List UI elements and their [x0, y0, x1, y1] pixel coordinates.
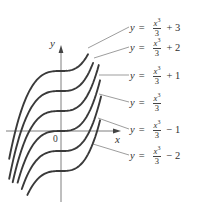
fraction-denominator: 3: [155, 131, 159, 140]
equation-constant: + 1: [166, 70, 180, 81]
fraction: x33: [153, 144, 162, 166]
y-axis-label: y: [50, 37, 55, 49]
fraction-denominator: 3: [155, 104, 159, 113]
equation-variable: y: [130, 124, 135, 135]
fraction-denominator: 3: [155, 49, 159, 58]
leader-line: [93, 144, 129, 155]
equation-constant: + 3: [166, 22, 180, 33]
equation-variable: y: [130, 42, 135, 53]
curve-c-1: [13, 65, 99, 182]
curve-family: [9, 54, 101, 195]
equation-variable: y: [130, 150, 135, 161]
equation-variable: y: [130, 22, 135, 33]
equation-constant: + 2: [166, 42, 180, 53]
equation-label: y=x33: [130, 91, 166, 113]
equation-constant: − 2: [166, 150, 180, 161]
equation-constant: − 1: [166, 124, 180, 135]
fraction: x33: [153, 64, 162, 86]
y-axis-arrow-icon: [59, 45, 64, 53]
fraction: x33: [153, 36, 162, 58]
leader-lines: [88, 27, 129, 155]
equals-sign: =: [139, 42, 145, 53]
equation-label: y=x33+ 1: [130, 64, 180, 86]
equation-label: y=x33− 1: [130, 118, 180, 140]
equals-sign: =: [139, 150, 145, 161]
equals-sign: =: [139, 97, 145, 108]
fraction: x33: [153, 16, 162, 38]
equation-variable: y: [130, 70, 135, 81]
y-axis: [59, 45, 64, 202]
equals-sign: =: [139, 70, 145, 81]
leader-line: [88, 27, 129, 48]
curve-c-2: [9, 63, 93, 179]
equals-sign: =: [139, 124, 145, 135]
fraction-denominator: 3: [155, 157, 159, 166]
fraction-denominator: 3: [155, 77, 159, 86]
equation-variable: y: [130, 97, 135, 108]
x-axis-label: x: [115, 133, 120, 145]
equation-label: y=x33− 2: [130, 144, 180, 166]
fraction: x33: [153, 118, 162, 140]
leader-line: [99, 94, 129, 102]
equals-sign: =: [139, 22, 145, 33]
origin-label: 0: [53, 134, 58, 144]
equation-label: y=x33+ 2: [130, 36, 180, 58]
fraction: x33: [153, 91, 162, 113]
leader-line: [94, 47, 129, 58]
equation-label: y=x33+ 3: [130, 16, 180, 38]
leader-line: [98, 118, 129, 129]
curve-c-3: [9, 54, 88, 159]
